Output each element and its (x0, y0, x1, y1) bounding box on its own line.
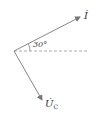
capacitor-voltage-phasor-arrow (14, 51, 42, 100)
capacitor-voltage-subscript: C (53, 103, 58, 110)
phasor-diagram: 30° İ U̇C (0, 0, 99, 118)
angle-label: 30° (33, 40, 47, 49)
capacitor-voltage-label: U̇C (45, 98, 58, 110)
current-label: İ (83, 10, 89, 21)
angle-arc (28, 43, 30, 51)
